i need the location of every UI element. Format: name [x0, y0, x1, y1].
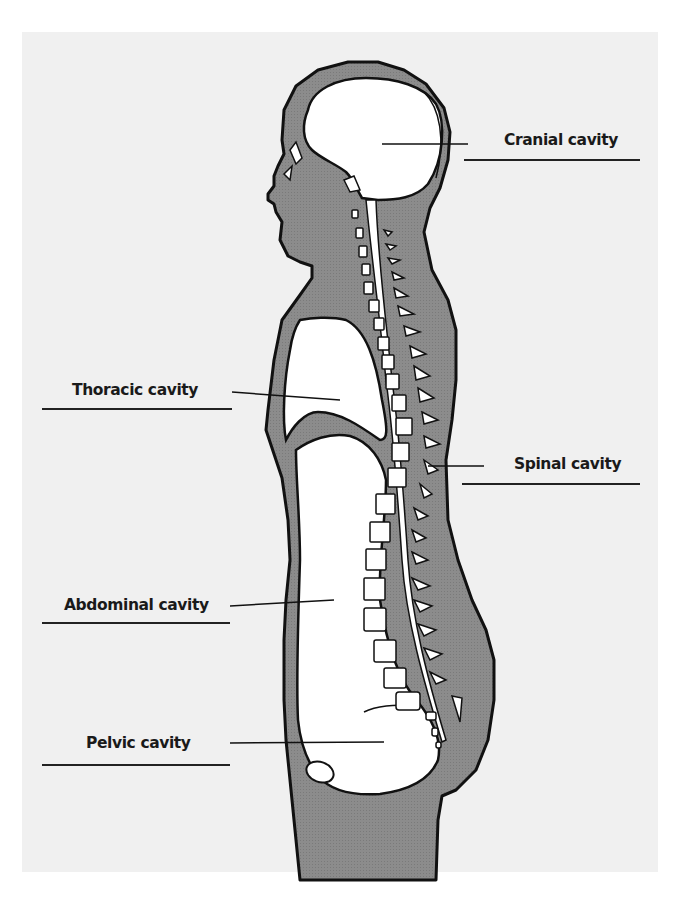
label-pelvic-cavity: Pelvic cavity — [86, 734, 191, 752]
label-spinal-cavity: Spinal cavity — [514, 455, 621, 473]
label-thoracic-cavity: Thoracic cavity — [72, 381, 198, 399]
label-abdominal-cavity: Abdominal cavity — [64, 596, 209, 614]
label-cranial-cavity: Cranial cavity — [504, 131, 618, 149]
label-underline-spinal — [462, 483, 640, 485]
label-underline-cranial — [464, 159, 640, 161]
label-underline-pelvic — [42, 764, 230, 766]
label-underline-abdominal — [42, 622, 230, 624]
label-underline-thoracic — [42, 408, 232, 410]
